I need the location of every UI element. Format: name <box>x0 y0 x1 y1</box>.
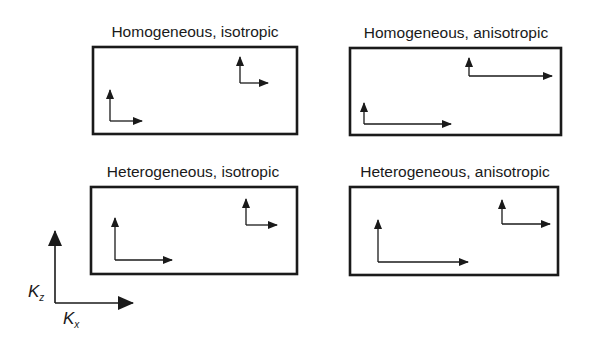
panel-title-homogeneous-isotropic: Homogeneous, isotropic <box>111 23 278 40</box>
panel-title-heterogeneous-isotropic: Heterogeneous, isotropic <box>107 163 280 180</box>
panel-heterogeneous-anisotropic <box>350 187 558 275</box>
kz-label: Kz <box>28 282 44 303</box>
panel-box <box>350 48 561 135</box>
kx-label: Kx <box>63 309 80 330</box>
axes-legend: Kz Kx <box>28 231 133 330</box>
panels-group <box>91 47 561 275</box>
panel-homogeneous-anisotropic <box>350 48 561 135</box>
panel-title-heterogeneous-anisotropic: Heterogeneous, anisotropic <box>360 163 550 180</box>
panel-heterogeneous-isotropic <box>91 187 297 274</box>
panel-box <box>91 187 297 274</box>
panel-homogeneous-isotropic <box>93 47 297 134</box>
permeability-diagram: Homogeneous, isotropic Homogeneous, anis… <box>0 0 594 345</box>
panel-title-homogeneous-anisotropic: Homogeneous, anisotropic <box>364 24 549 41</box>
